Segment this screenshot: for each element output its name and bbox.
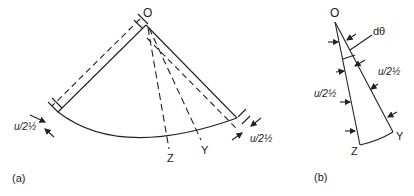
sector-right-edge bbox=[146, 25, 237, 118]
figure-b bbox=[328, 22, 397, 145]
sector-arc bbox=[58, 112, 237, 138]
tick bbox=[52, 98, 62, 108]
offset-label-left-b: u/2½ bbox=[314, 88, 337, 99]
apex-label-a: O bbox=[143, 6, 152, 20]
point-z-label-a: Z bbox=[167, 152, 174, 164]
displaced-left-edge bbox=[52, 19, 140, 106]
diagram-canvas: O Z Y u/2½ u/2½ (a) O dθ u/2½ u/2½ Z Y (… bbox=[0, 0, 414, 196]
tick bbox=[242, 116, 250, 124]
dtheta-leader bbox=[350, 35, 372, 50]
offset-label-right-b: u/2½ bbox=[378, 66, 401, 77]
radial-to-z bbox=[148, 28, 169, 149]
figure-a bbox=[30, 14, 261, 149]
sector-left-edge bbox=[58, 25, 146, 112]
angle-label-b: dθ bbox=[373, 25, 385, 37]
figure-b-caption: (b) bbox=[314, 171, 327, 183]
offset-label-right-a: u/2½ bbox=[250, 133, 273, 144]
dimension-arrow-icon bbox=[45, 129, 54, 137]
stress-arrow-icon bbox=[371, 84, 378, 89]
dimension-arrow-icon bbox=[232, 133, 242, 140]
tick bbox=[48, 102, 58, 112]
point-y-label-b: Y bbox=[396, 130, 404, 142]
wedge-left-edge bbox=[335, 22, 360, 145]
dimension-arrow-icon bbox=[251, 118, 261, 126]
offset-label-left-a: u/2½ bbox=[14, 121, 37, 132]
apex-label-b: O bbox=[330, 6, 339, 20]
wedge-arc bbox=[360, 132, 393, 145]
wedge-right-edge bbox=[335, 22, 393, 132]
stress-arrow-icon bbox=[347, 34, 356, 40]
stress-arrow-icon bbox=[388, 112, 397, 117]
figure-a-caption: (a) bbox=[12, 172, 25, 184]
point-z-label-b: Z bbox=[351, 145, 358, 157]
stress-arrow-icon bbox=[336, 71, 344, 72]
point-y-label-a: Y bbox=[201, 144, 209, 156]
tick bbox=[238, 109, 246, 117]
